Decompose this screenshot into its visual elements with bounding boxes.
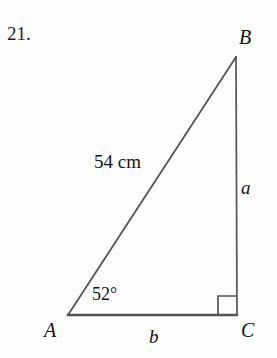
vertex-label-b: B bbox=[239, 27, 251, 47]
triangle-hypotenuse-line bbox=[68, 57, 236, 315]
vertex-label-c: C bbox=[241, 320, 254, 340]
side-label-a: a bbox=[241, 178, 251, 197]
side-label-b: b bbox=[149, 327, 159, 346]
problem-number: 21. bbox=[7, 24, 31, 43]
angle-measurement-label-a: 52° bbox=[92, 285, 117, 303]
vertex-label-a: A bbox=[44, 320, 56, 340]
geometry-figure: 21. B A C 54 cm a b 52° bbox=[0, 0, 277, 358]
right-angle-icon bbox=[218, 296, 236, 314]
triangle-side-a-line bbox=[236, 57, 237, 315]
triangle-diagram bbox=[0, 0, 277, 358]
hypotenuse-measurement-label: 54 cm bbox=[94, 152, 141, 171]
